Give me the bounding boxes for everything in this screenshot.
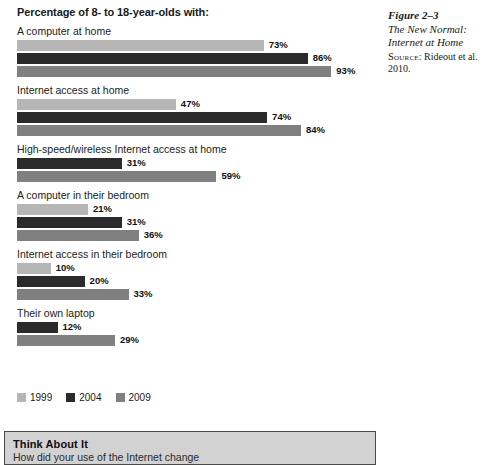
bar-group-label: High-speed/wireless Internet access at h… <box>17 142 350 156</box>
figure-caption: Figure 2–3 The New Normal: Internet at H… <box>388 8 484 75</box>
bar-row: 29% <box>0 335 350 346</box>
bar-group-label: Internet access in their bedroom <box>17 247 350 261</box>
bar-value-label: 93% <box>336 65 355 76</box>
bar-value-label: 31% <box>127 216 146 227</box>
bar-group: Internet access in their bedroom10%20%33… <box>0 247 350 300</box>
bar-row: 10% <box>0 263 350 274</box>
bar-1999 <box>17 204 88 215</box>
bar-value-label: 47% <box>181 98 200 109</box>
bar-value-label: 73% <box>269 39 288 50</box>
bar-value-label: 12% <box>63 321 82 332</box>
caption-source: Source: Rideout et al. 2010. <box>388 51 484 75</box>
legend-label: 2009 <box>129 392 151 403</box>
bar-row: 12% <box>0 322 350 333</box>
bar-value-label: 86% <box>313 52 332 63</box>
bar-2004 <box>17 158 122 169</box>
legend-swatch-icon <box>116 393 125 402</box>
bar-2009 <box>17 66 331 77</box>
figure-panel: Percentage of 8- to 18-year-olds with: A… <box>0 0 350 412</box>
bar-row: 86% <box>0 53 350 64</box>
bar-value-label: 29% <box>120 334 139 345</box>
bar-2004 <box>17 112 267 123</box>
bar-value-label: 21% <box>93 203 112 214</box>
bar-2004 <box>17 322 58 333</box>
legend-item-1999: 1999 <box>17 392 52 403</box>
bar-row: 93% <box>0 66 350 77</box>
bar-group: A computer at home73%86%93% <box>0 24 350 77</box>
bar-row: 33% <box>0 289 350 300</box>
bar-group: High-speed/wireless Internet access at h… <box>0 142 350 182</box>
bar-group-label: A computer in their bedroom <box>17 188 350 202</box>
bar-group-label: Their own laptop <box>17 306 350 320</box>
bar-groups-container: A computer at home73%86%93%Internet acce… <box>0 24 350 352</box>
bar-row: 21% <box>0 204 350 215</box>
bar-row: 47% <box>0 99 350 110</box>
bar-group-label: A computer at home <box>17 24 350 38</box>
legend-label: 1999 <box>30 392 52 403</box>
legend-item-2009: 2009 <box>116 392 151 403</box>
think-about-it-body: How did your use of the Internet change <box>13 451 375 464</box>
bar-value-label: 74% <box>272 111 291 122</box>
bar-value-label: 20% <box>90 275 109 286</box>
bar-value-label: 31% <box>127 157 146 168</box>
think-about-it-title: Think About It <box>13 438 375 450</box>
legend-item-2004: 2004 <box>66 392 101 403</box>
bar-2009 <box>17 335 115 346</box>
bar-value-label: 36% <box>144 229 163 240</box>
chart-legend: 199920042009 <box>17 392 151 403</box>
bar-value-label: 33% <box>134 288 153 299</box>
legend-label: 2004 <box>79 392 101 403</box>
bar-2009 <box>17 125 301 136</box>
bar-value-label: 84% <box>306 124 325 135</box>
bar-2009 <box>17 289 129 300</box>
bar-row: 31% <box>0 158 350 169</box>
bar-row: 84% <box>0 125 350 136</box>
caption-title-line-1: The New Normal: <box>388 23 467 35</box>
bar-1999 <box>17 40 264 51</box>
legend-swatch-icon <box>17 393 26 402</box>
bar-1999 <box>17 99 176 110</box>
bar-2004 <box>17 53 308 64</box>
bar-2009 <box>17 171 216 182</box>
legend-swatch-icon <box>66 393 75 402</box>
bar-2004 <box>17 276 85 287</box>
bar-group-label: Internet access at home <box>17 83 350 97</box>
caption-title: The New Normal: Internet at Home <box>388 23 484 49</box>
bar-2009 <box>17 230 139 241</box>
caption-title-line-2: Internet at Home <box>388 36 463 48</box>
bar-row: 36% <box>0 230 350 241</box>
bar-group: A computer in their bedroom21%31%36% <box>0 188 350 241</box>
bar-row: 73% <box>0 40 350 51</box>
bar-group: Internet access at home47%74%84% <box>0 83 350 136</box>
bar-row: 31% <box>0 217 350 228</box>
caption-source-label: Source <box>388 51 419 62</box>
bar-value-label: 10% <box>56 262 75 273</box>
chart-title: Percentage of 8- to 18-year-olds with: <box>17 6 209 18</box>
bar-row: 74% <box>0 112 350 123</box>
bar-1999 <box>17 263 51 274</box>
bar-2004 <box>17 217 122 228</box>
bar-row: 59% <box>0 171 350 182</box>
bar-value-label: 59% <box>221 170 240 181</box>
bar-group: Their own laptop12%29% <box>0 306 350 346</box>
caption-figure-number: Figure 2–3 <box>388 8 484 22</box>
think-about-it-box: Think About It How did your use of the I… <box>4 431 376 465</box>
bar-row: 20% <box>0 276 350 287</box>
